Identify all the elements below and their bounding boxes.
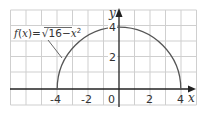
x-axis-label: x: [188, 91, 195, 105]
x-tick-neg4: -4: [50, 93, 61, 106]
function-label: f(x)=√16−x2: [12, 26, 81, 58]
svg-text:f(x)=√16−x2: f(x)=√16−x2: [13, 27, 81, 39]
y-tick-2: 2: [109, 51, 116, 64]
y-tick-4: 4: [109, 21, 116, 34]
x-tick-2: 2: [146, 93, 153, 106]
leader-line: [48, 40, 62, 58]
x-tick-4: 4: [177, 93, 184, 106]
y-axis-label: y: [108, 6, 116, 20]
x-tick-neg2: -2: [81, 93, 92, 106]
grid: [11, 10, 197, 105]
chart-canvas: f(x)=√16−x2 -4 -2 0 2 4 2 4 x y: [0, 0, 204, 113]
x-tick-0: 0: [108, 93, 115, 106]
y-arrow-icon: [116, 8, 123, 17]
